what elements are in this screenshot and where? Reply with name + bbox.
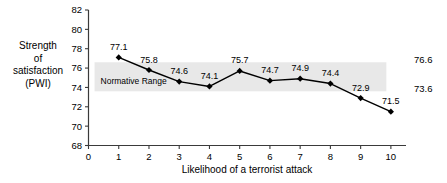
band-upper-annotation: 76.6 (414, 54, 433, 65)
normative-range-label: Normative Range (101, 76, 167, 86)
data-label-7: 74.9 (291, 63, 309, 73)
y-axis-title-line-4: (PWI) (2, 78, 74, 91)
x-tick-label-4: 4 (207, 151, 212, 162)
data-label-4: 74.1 (201, 71, 219, 81)
data-label-1: 77.1 (110, 42, 128, 52)
x-tick-label-5: 5 (237, 151, 242, 162)
data-label-2: 75.8 (140, 55, 158, 65)
x-tick-label-6: 6 (267, 151, 272, 162)
x-tick-label-8: 8 (328, 151, 333, 162)
y-tick-label-68: 68 (71, 140, 82, 151)
data-label-3: 74.6 (170, 66, 188, 76)
x-axis-title: Likelihood of a terrorist attack (182, 164, 314, 175)
data-label-9: 72.9 (352, 83, 370, 93)
normative-range-band: Normative Range (95, 62, 387, 91)
y-axis-title-line-2: of (2, 53, 74, 66)
y-tick-label-72: 72 (71, 101, 82, 112)
y-axis-title-line-1: Strength (2, 40, 74, 53)
x-tick-label-10: 10 (386, 151, 397, 162)
data-point-9 (358, 95, 364, 101)
x-tick-label-9: 9 (358, 151, 363, 162)
x-tick-label-0: 0 (86, 151, 91, 162)
data-label-5: 75.7 (231, 55, 249, 65)
y-tick-label-82: 82 (71, 4, 82, 15)
band-lower-annotation: 73.6 (414, 83, 433, 94)
y-tick-label-80: 80 (71, 24, 82, 35)
data-label-10: 71.5 (382, 96, 400, 106)
chart-container: Strength of satisfaction (PWI) Normative… (0, 0, 447, 183)
data-label-8: 74.4 (322, 68, 340, 78)
y-axis-title: Strength of satisfaction (PWI) (2, 40, 74, 90)
y-axis-title-line-3: satisfaction (2, 65, 74, 78)
line-chart: Normative Range 6870727476788082 0123456… (0, 0, 447, 183)
x-tick-label-7: 7 (298, 151, 303, 162)
y-tick-label-70: 70 (71, 121, 82, 132)
x-tick-label-1: 1 (116, 151, 121, 162)
data-point-1 (116, 54, 122, 60)
x-axis-ticks: 012345678910 (86, 146, 396, 162)
x-tick-label-3: 3 (177, 151, 182, 162)
data-label-6: 74.7 (261, 65, 279, 75)
x-tick-label-2: 2 (146, 151, 151, 162)
data-point-10 (388, 109, 394, 115)
